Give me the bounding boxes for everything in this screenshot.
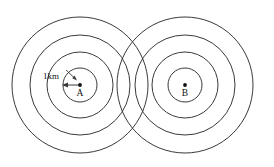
figure-background	[0, 0, 274, 167]
center-dot-b	[183, 83, 187, 87]
center-label-a: A	[77, 88, 84, 98]
center-label-b: B	[182, 88, 188, 98]
center-dot-a	[78, 83, 82, 87]
diagram-canvas: A B 1km	[0, 0, 274, 167]
concentric-circles-figure: A B 1km	[0, 0, 274, 167]
radius-measure-label: 1km	[43, 71, 59, 81]
